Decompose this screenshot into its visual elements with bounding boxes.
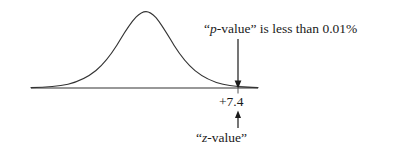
p-value-italic-symbol: p <box>210 21 217 36</box>
z-value-tick-label: +7.4 <box>219 95 244 109</box>
z-value-close-quote: ” <box>241 130 247 145</box>
normal-distribution-p-value-diagram: “p-value” is less than 0.01% +7.4 “z-val… <box>0 0 400 160</box>
z-value-annotation-label: “z-value” <box>196 131 247 145</box>
p-value-rest-text: is less than 0.01% <box>256 21 357 36</box>
z-value-pointer-arrowhead <box>235 111 241 119</box>
z-value-suffix: -value <box>207 130 241 145</box>
p-value-suffix: -value <box>217 21 251 36</box>
p-value-annotation-label: “p-value” is less than 0.01% <box>204 22 357 36</box>
